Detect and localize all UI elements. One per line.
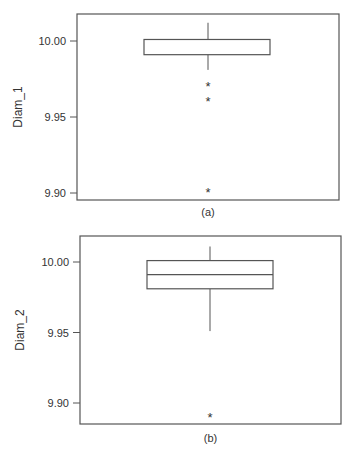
y-tick-label: 9.90	[48, 397, 69, 409]
chart-caption: (a)	[201, 206, 214, 218]
iqr-box	[144, 39, 270, 54]
boxplot-a-canvas: 9.909.9510.00Diam_1***(a)	[0, 0, 354, 225]
boxplot-b-canvas: 9.909.9510.00Diam_2*(b)	[0, 225, 354, 452]
y-tick-label: 10.00	[41, 256, 69, 268]
outlier-marker: *	[205, 94, 210, 109]
y-tick-label: 9.95	[45, 111, 66, 123]
chart-caption: (b)	[204, 432, 217, 444]
outlier-marker: *	[207, 410, 212, 425]
outlier-marker: *	[205, 79, 210, 94]
y-axis-label: Diam_1	[11, 86, 25, 128]
y-tick-label: 10.00	[38, 35, 66, 47]
boxplot-b: 9.909.9510.00Diam_2*(b)	[0, 225, 354, 452]
outlier-marker: *	[205, 185, 210, 200]
y-tick-label: 9.95	[48, 327, 69, 339]
y-tick-label: 9.90	[45, 187, 66, 199]
y-axis-label: Diam_2	[13, 309, 27, 351]
boxplot-a: 9.909.9510.00Diam_1***(a)	[0, 0, 354, 225]
